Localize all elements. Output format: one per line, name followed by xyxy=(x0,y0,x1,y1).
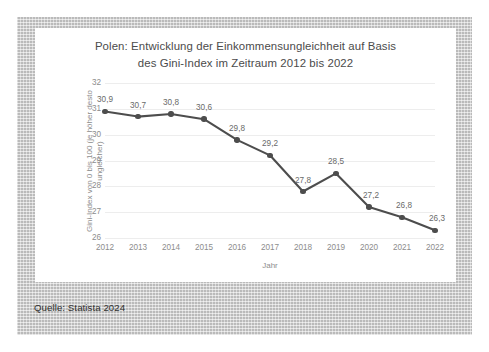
data-point-marker xyxy=(168,111,173,116)
data-point-marker xyxy=(366,204,371,209)
x-axis-tick-label: 2017 xyxy=(253,243,287,252)
data-point-marker xyxy=(267,153,272,158)
data-point-label: 28,5 xyxy=(316,157,356,166)
x-axis-tick-label: 2021 xyxy=(385,243,419,252)
source-note: Quelle: Statista 2024 xyxy=(34,302,125,313)
y-axis-tick-label: 30 xyxy=(71,130,101,139)
x-axis-tick-label: 2013 xyxy=(121,243,155,252)
plot-area: Gini-Index von 0 bis 100 (je höher desto… xyxy=(105,83,435,238)
data-point-marker xyxy=(135,114,140,119)
y-axis-tick-label: 31 xyxy=(71,104,101,113)
x-axis-title: Jahr xyxy=(105,261,435,270)
data-point-label: 26,8 xyxy=(384,201,424,210)
data-point-marker xyxy=(102,109,107,114)
y-axis-tick-label: 27 xyxy=(71,207,101,216)
data-point-label: 27,8 xyxy=(283,176,323,185)
data-point-marker xyxy=(201,116,206,121)
data-point-marker xyxy=(399,215,404,220)
data-point-marker xyxy=(234,137,239,142)
x-axis-tick-label: 2022 xyxy=(418,243,452,252)
gridline xyxy=(105,238,435,239)
data-point-marker xyxy=(432,228,437,233)
x-axis-tick-label: 2012 xyxy=(88,243,122,252)
data-point-label: 26,3 xyxy=(417,214,457,223)
data-point-label: 30,6 xyxy=(184,103,224,112)
y-axis-tick-label: 32 xyxy=(71,78,101,87)
y-axis-tick-label: 26 xyxy=(71,233,101,242)
x-axis-tick-label: 2019 xyxy=(319,243,353,252)
screenshot-page: Polen: Entwicklung der Einkommensungleic… xyxy=(0,0,489,352)
x-axis-tick-label: 2014 xyxy=(154,243,188,252)
chart-title-line-2: des Gini-Index im Zeitraum 2012 bis 2022 xyxy=(35,55,456,72)
x-axis-tick-label: 2020 xyxy=(352,243,386,252)
chart-title-line-1: Polen: Entwicklung der Einkommensungleic… xyxy=(35,38,456,55)
chart-card: Polen: Entwicklung der Einkommensungleic… xyxy=(35,28,456,282)
x-axis-tick-label: 2015 xyxy=(187,243,221,252)
data-point-label: 27,2 xyxy=(351,191,391,200)
data-point-label: 29,2 xyxy=(250,139,290,148)
data-point-marker xyxy=(333,171,338,176)
y-axis-tick-label: 28 xyxy=(71,181,101,190)
x-axis-tick-label: 2016 xyxy=(220,243,254,252)
x-axis-tick-label: 2018 xyxy=(286,243,320,252)
data-point-label: 29,8 xyxy=(217,124,257,133)
y-axis-tick-label: 29 xyxy=(71,156,101,165)
chart-title: Polen: Entwicklung der Einkommensungleic… xyxy=(35,38,456,72)
data-point-marker xyxy=(300,189,305,194)
